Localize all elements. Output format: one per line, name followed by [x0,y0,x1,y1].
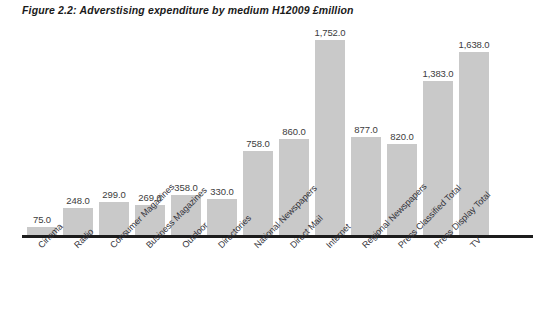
figure-container: Figure 2.2: Adverstising expenditure by … [0,0,544,335]
bar-value-label: 1,638.0 [449,39,499,50]
bar-value-label: 820.0 [377,131,427,142]
plot-area: 75.0248.0299.0269.0358.0330.0758.0860.01… [0,0,544,335]
x-axis-line [22,235,533,238]
bar-value-label: 1,752.0 [305,27,355,38]
bar [351,137,381,235]
bar-value-label: 758.0 [233,138,283,149]
bar-value-label: 860.0 [269,126,319,137]
bar-value-label: 1,383.0 [413,68,463,79]
bar [315,40,345,236]
